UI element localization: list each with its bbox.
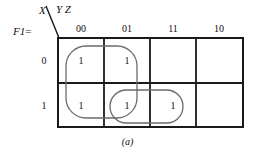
karnaugh-map-figure: X Y Z F1= 00 01 11 10 0 1 1 1 1 1 1 (a) [0,0,255,156]
cell-row1-col11: 1 [150,100,196,111]
cell-row1-col01: 1 [104,100,150,111]
cell-row1-col00: 1 [58,100,104,111]
cell-row0-col01: 1 [104,55,150,66]
cell-row0-col00: 1 [58,55,104,66]
kmap-grid [0,0,255,156]
figure-caption: (a) [0,136,255,147]
